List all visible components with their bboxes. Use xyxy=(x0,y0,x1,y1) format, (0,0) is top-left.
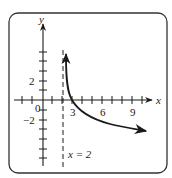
y-axis-label: y xyxy=(38,13,44,25)
tick-label-y-neg2: −2 xyxy=(23,114,35,126)
tick-label-y-2: 2 xyxy=(29,75,35,87)
tick-label-x-3: 3 xyxy=(70,106,76,118)
origin-label: 0 xyxy=(35,102,41,114)
asymptote-label: x = 2 xyxy=(67,148,92,160)
graph: y x 0 3 6 9 2 −2 x = 2 xyxy=(0,0,172,178)
tick-label-x-9: 9 xyxy=(130,106,136,118)
tick-label-x-6: 6 xyxy=(100,106,106,118)
x-axis-label: x xyxy=(155,94,161,106)
function-curve xyxy=(66,56,146,131)
